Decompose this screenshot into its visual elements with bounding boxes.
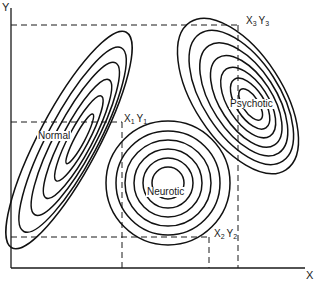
point-x1y1-label: X1Y1 — [124, 114, 147, 124]
psychotic-label: Psychotic — [229, 99, 274, 109]
diagram-canvas: Y X Normal Neurotic Psychotic X1Y1 X2Y2 … — [0, 0, 319, 282]
psychotic-contours — [153, 0, 319, 194]
y-axis-label: Y — [2, 2, 9, 13]
diagram-graphics — [0, 0, 319, 282]
normal-contours — [0, 18, 153, 262]
point-x3y3-label: X3Y3 — [246, 16, 269, 26]
x-axis-label: X — [306, 270, 313, 281]
point-x2y2-label: X2Y2 — [214, 229, 237, 239]
neurotic-label: Neurotic — [146, 187, 185, 197]
reference-lines — [11, 25, 238, 268]
neurotic-contours — [106, 121, 230, 245]
normal-label: Normal — [37, 131, 71, 141]
